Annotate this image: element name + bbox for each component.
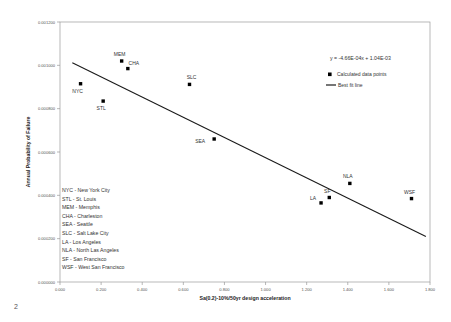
abbreviation-item: STL - St. Louis	[62, 196, 97, 202]
data-point-marker[interactable]	[126, 67, 129, 70]
x-axis-tick-label: 1.600	[384, 287, 395, 292]
abbreviation-item: SLC - Salt Lake City	[62, 230, 109, 236]
x-axis-tick-label: 0.400	[137, 287, 148, 292]
data-point-label: NLA	[343, 173, 353, 179]
data-point-marker[interactable]	[101, 99, 104, 102]
abbreviation-item: NYC - New York City	[62, 187, 110, 193]
x-axis-tick-label: 0.200	[96, 287, 107, 292]
data-point-marker[interactable]	[79, 82, 82, 85]
abbreviation-item: NLA - North Las Angeles	[62, 247, 119, 253]
data-point-label: STL	[97, 105, 106, 111]
data-point-label: NYC	[72, 88, 83, 94]
x-axis-tick-label: 1.800	[425, 287, 436, 292]
data-point-marker[interactable]	[410, 197, 413, 200]
x-axis-tick-label: 0.600	[178, 287, 189, 292]
page-number: 2	[14, 303, 18, 310]
abbreviation-item: MEM - Memphis	[62, 204, 100, 210]
y-axis-tick-label: 0.000600	[38, 150, 56, 155]
data-point-marker[interactable]	[120, 59, 123, 62]
plot-area	[60, 22, 430, 282]
regression-equation: y = -4.66E-04x + 1.04E-03	[330, 55, 391, 61]
plot-frame	[60, 22, 430, 282]
y-axis-tick-label: 0.000000	[38, 280, 56, 285]
y-axis-title: Annual Probability of Failure	[25, 117, 31, 188]
x-axis-tick-label: 1.000	[260, 287, 271, 292]
x-axis-tick-label: 1.200	[302, 287, 313, 292]
data-point-label: WSF	[404, 189, 415, 195]
x-axis-tick-label: 1.400	[343, 287, 354, 292]
abbreviation-item: CHA - Charleston	[62, 213, 102, 219]
x-axis: 0.0000.2000.4000.6000.8001.0001.2001.400…	[55, 282, 436, 292]
abbreviation-item: WSF - West San Francisco	[62, 264, 125, 270]
data-point-marker[interactable]	[319, 201, 322, 204]
x-axis-title: Sa(0.2)-10%/50yr design acceleration	[199, 295, 290, 301]
x-axis-tick-label: 0.000	[55, 287, 66, 292]
data-point-label: CHA	[129, 60, 140, 66]
figure-container: 0.0000000.0002000.0004000.0006000.000800…	[0, 0, 451, 322]
abbreviation-item: LA - Los Angeles	[62, 239, 101, 245]
y-axis-tick-label: 0.000400	[38, 193, 56, 198]
legend-label-best-fit: Best fit line	[338, 82, 363, 88]
y-axis-tick-label: 0.000200	[38, 236, 56, 241]
data-point-label: SF	[324, 188, 330, 194]
x-axis-tick-label: 0.800	[219, 287, 230, 292]
data-point-marker[interactable]	[212, 137, 215, 140]
y-axis-tick-label: 0.000800	[38, 106, 56, 111]
data-point-label: SLC	[187, 74, 197, 80]
data-point-label: MEM	[114, 51, 126, 57]
abbreviation-item: SEA - Seattle	[62, 221, 93, 227]
abbreviation-item: SF - San Francisco	[62, 256, 107, 262]
legend-marker-square-icon	[328, 73, 332, 77]
legend-label-data-points: Calculated data points	[337, 71, 387, 77]
scatter-chart: 0.0000000.0002000.0004000.0006000.000800…	[0, 0, 451, 322]
y-axis-tick-label: 0.001200	[38, 20, 56, 25]
y-axis: 0.0000000.0002000.0004000.0006000.000800…	[38, 20, 60, 285]
data-point-label: LA	[310, 195, 317, 201]
data-point-marker[interactable]	[348, 182, 351, 185]
data-point-marker[interactable]	[188, 83, 191, 86]
data-point-marker[interactable]	[328, 196, 331, 199]
y-axis-tick-label: 0.001000	[38, 63, 56, 68]
data-point-label: SEA	[195, 138, 206, 144]
